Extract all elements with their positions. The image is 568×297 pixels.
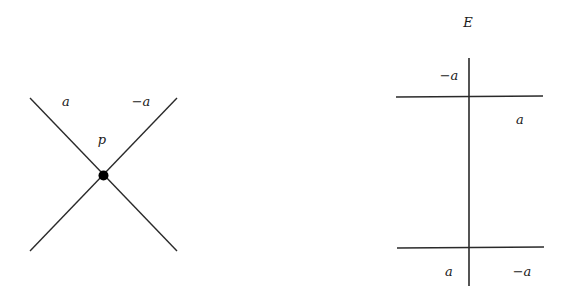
right-title-E: E [463, 16, 473, 29]
left-label-top-left: a [62, 95, 70, 108]
point-label-p: p [98, 133, 106, 146]
right-label-bottom-lower-right: −a [513, 265, 532, 278]
right-bottom-horizontal-line [397, 247, 544, 248]
right-label-bottom-lower-left: a [445, 265, 453, 278]
diagram-canvas [0, 0, 568, 297]
right-label-top-lower-right: a [516, 113, 524, 126]
right-label-top-upper-left: −a [440, 69, 459, 82]
left-label-top-right: −a [132, 95, 151, 108]
right-top-horizontal-line [396, 96, 543, 97]
crossing-point-p [99, 171, 109, 181]
right-diagram-lines [396, 58, 544, 286]
